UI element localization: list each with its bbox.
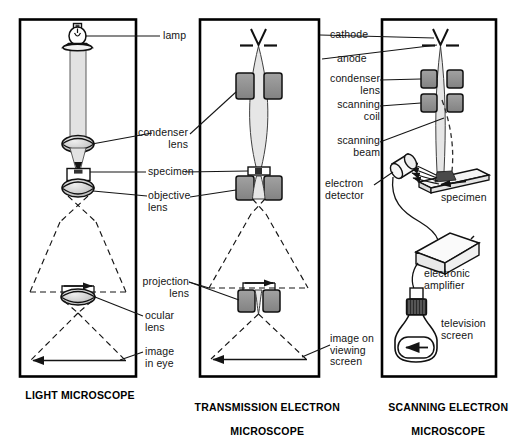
label-anode: anode xyxy=(337,53,367,65)
label-image-on-viewing-screen: image on viewing screen xyxy=(330,333,374,368)
ray-path-objective xyxy=(30,196,126,292)
leader-electron-detector xyxy=(374,172,393,185)
ray-path-tem-objective xyxy=(209,199,308,288)
leader-condenser-tem xyxy=(190,92,236,134)
title-sem: SCANNING ELECTRON MICROSCOPE xyxy=(372,389,512,439)
amplifier-cable xyxy=(412,263,418,291)
label-cathode: cathode xyxy=(330,29,368,41)
label-ocular-lens: ocular lens xyxy=(145,310,174,333)
leader-image-eye xyxy=(120,352,143,360)
label-image-in-eye: image in eye xyxy=(145,346,174,369)
cathode-sem xyxy=(433,29,448,45)
lamp-icon xyxy=(63,24,92,51)
label-objective-lens-light: objective lens xyxy=(148,190,190,213)
label-condenser-lens-sem: condenser lens xyxy=(320,73,380,96)
electron-beam-tem-projection xyxy=(255,290,262,314)
television-screen-sem xyxy=(395,288,437,362)
label-electronic-amplifier: electronic amplifier xyxy=(424,268,470,291)
ray-path-tem-screen xyxy=(211,314,306,359)
leader-condenser-sem xyxy=(380,79,421,80)
electron-beam-tem xyxy=(250,46,268,169)
objective-lens-light xyxy=(62,179,94,197)
label-electron-detector: electron detector xyxy=(325,178,364,201)
leader-scanning-beam xyxy=(380,118,444,142)
title-sem-line1: SCANNING ELECTRON xyxy=(388,401,508,413)
leader-specimen-tem xyxy=(185,171,248,172)
leader-objective-tem xyxy=(190,190,236,197)
label-projection-lens: projection lens xyxy=(131,276,189,299)
light-microscope-optics xyxy=(30,24,126,361)
label-condenser-lens-light: condenser lens xyxy=(128,127,188,150)
cathode-tem xyxy=(251,29,266,45)
electron-detector-sem xyxy=(388,152,419,181)
leader-image-viewing-screen xyxy=(302,345,330,357)
ray-path-ocular xyxy=(31,301,125,360)
leader-scanning-coil xyxy=(380,103,421,106)
title-light-microscope: LIGHT MICROSCOPE xyxy=(10,389,150,401)
label-specimen-light: specimen xyxy=(148,166,194,178)
label-lamp: lamp xyxy=(163,30,186,42)
leader-objective-light xyxy=(93,191,147,196)
light-beam-upper xyxy=(70,48,86,144)
title-tem-line2: MICROSCOPE xyxy=(230,425,304,437)
title-sem-line2: MICROSCOPE xyxy=(411,425,485,437)
specimen-stage-sem xyxy=(419,169,489,193)
label-scanning-beam: scanning beam xyxy=(322,135,380,158)
specimen-tem xyxy=(248,167,270,175)
leader-projection-tem xyxy=(189,282,239,300)
label-scanning-coil: scanning coil xyxy=(322,99,380,122)
tem-optics xyxy=(209,29,308,360)
label-television-screen: television screen xyxy=(441,318,486,341)
label-specimen-sem: specimen xyxy=(441,192,487,204)
title-tem-line1: TRANSMISSION ELECTRON xyxy=(195,401,340,413)
title-tem: TRANSMISSION ELECTRON MICROSCOPE xyxy=(180,389,342,439)
